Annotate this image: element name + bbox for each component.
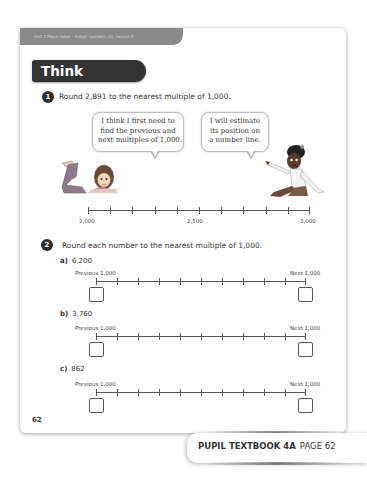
- part-c-value: 862: [71, 365, 84, 373]
- part-c-next-answer-box[interactable]: [298, 398, 313, 413]
- part-a-next-answer-box[interactable]: [298, 287, 313, 302]
- part-a-label: a)6,200: [60, 257, 92, 265]
- part-c-letter: c): [60, 365, 67, 373]
- speech-bubble-left: I think I first need to find the previou…: [92, 112, 184, 152]
- tick: [177, 207, 178, 214]
- footer-caption: PUPIL TEXTBOOK 4APAGE 62: [198, 441, 336, 451]
- bubble-left-line-3: next multiples of 1,000.: [98, 136, 178, 146]
- part-b-previous-label: Previous 1,000: [75, 325, 116, 331]
- bubble-right-line-1: I will estimate: [207, 117, 263, 127]
- tick: [309, 207, 310, 214]
- tick: [117, 278, 118, 285]
- tick: [180, 333, 181, 340]
- tick: [159, 333, 160, 340]
- tick: [264, 278, 265, 285]
- tick: [264, 333, 265, 340]
- tick: [201, 278, 202, 285]
- tick: [222, 278, 223, 285]
- tick: [243, 389, 244, 396]
- part-a-value: 6,200: [72, 257, 92, 265]
- question-2-text: Round each number to the nearest multipl…: [62, 241, 262, 250]
- page-number: 62: [32, 416, 42, 424]
- speech-bubble-right-tail: [246, 151, 256, 160]
- bubble-right-line-2: its position on: [207, 127, 263, 137]
- tick: [199, 207, 200, 214]
- unit-banner: Unit 2 Place value – 4-digit numbers (2)…: [20, 28, 183, 45]
- part-c-previous-answer-box[interactable]: [89, 398, 104, 413]
- question-1-number-badge: 1: [42, 91, 54, 103]
- question-2-number-badge: 2: [41, 239, 53, 251]
- tick: [243, 333, 244, 340]
- tick: [243, 207, 244, 214]
- tick: [201, 333, 202, 340]
- tick: [138, 389, 139, 396]
- number-line-mid-label: 2,500: [187, 218, 203, 224]
- part-b-letter: b): [60, 310, 68, 318]
- part-b-value: 3,760: [72, 310, 92, 318]
- tick: [305, 278, 306, 285]
- tick: [96, 389, 97, 396]
- tick: [201, 389, 202, 396]
- tick: [221, 207, 222, 214]
- tick: [305, 389, 306, 396]
- tick: [159, 389, 160, 396]
- number-line-end-label: 3,000: [300, 218, 316, 224]
- tick: [305, 333, 306, 340]
- part-c-next-label: Next 1,000: [290, 381, 320, 387]
- part-c-label: c)862: [60, 365, 85, 373]
- tick: [222, 389, 223, 396]
- section-title: Think together: [32, 60, 146, 82]
- speech-bubble-left-tail: [150, 151, 160, 160]
- tick: [288, 207, 289, 214]
- part-b-next-answer-box[interactable]: [298, 342, 313, 357]
- part-a-next-label: Next 1,000: [290, 270, 320, 276]
- tick: [138, 333, 139, 340]
- tick: [96, 333, 97, 340]
- tick: [132, 207, 133, 214]
- girl-lying-character-icon: [58, 155, 128, 197]
- part-b-next-label: Next 1,000: [290, 325, 320, 331]
- number-line-start-label: 2,000: [79, 218, 95, 224]
- footer-book-title: PUPIL TEXTBOOK 4A: [198, 441, 296, 451]
- tick: [155, 207, 156, 214]
- tick: [222, 333, 223, 340]
- part-a-letter: a): [60, 257, 68, 265]
- tick: [243, 278, 244, 285]
- footer-page-label: PAGE 62: [300, 441, 336, 451]
- tick: [285, 333, 286, 340]
- part-b-label: b)3,760: [60, 310, 92, 318]
- girl-pointing-character-icon: [262, 140, 344, 198]
- part-a-number-line: [96, 278, 306, 286]
- tick: [266, 207, 267, 214]
- part-a-previous-answer-box[interactable]: [89, 287, 104, 302]
- tick: [117, 333, 118, 340]
- bubble-left-line-1: I think I first need to: [98, 117, 178, 127]
- tick: [96, 278, 97, 285]
- question-1-number-line: [88, 207, 310, 215]
- footer-shadow-bottom: [205, 462, 350, 465]
- bubble-left-line-2: find the previous and: [98, 127, 178, 137]
- bubble-right-line-3: a number line.: [207, 136, 263, 146]
- tick: [88, 207, 89, 214]
- tick: [159, 278, 160, 285]
- tick: [285, 278, 286, 285]
- part-c-number-line: [96, 389, 306, 397]
- tick: [138, 278, 139, 285]
- tick: [180, 278, 181, 285]
- part-a-previous-label: Previous 1,000: [75, 270, 116, 276]
- part-b-previous-answer-box[interactable]: [89, 342, 104, 357]
- question-1-text: Round 2,891 to the nearest multiple of 1…: [59, 92, 231, 101]
- tick: [180, 389, 181, 396]
- part-b-number-line: [96, 333, 306, 341]
- tick: [285, 389, 286, 396]
- tick: [264, 389, 265, 396]
- speech-bubble-right: I will estimate its position on a number…: [201, 112, 269, 152]
- part-c-previous-label: Previous 1,000: [75, 381, 116, 387]
- tick: [110, 207, 111, 214]
- tick: [117, 389, 118, 396]
